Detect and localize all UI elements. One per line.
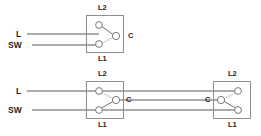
- top-section-group: [27, 16, 124, 53]
- label-bottom-right-l1: L1: [228, 121, 237, 129]
- blade-bottom-right-to-l2: [223, 93, 235, 99]
- blade-bottom-left-to-l1: [102, 101, 114, 108]
- terminal-bottom-left-l2: [96, 88, 103, 95]
- label-bottom-left-common: C: [126, 96, 131, 104]
- label-live-top: L: [16, 30, 21, 39]
- blade-top-to-l1: [102, 37, 114, 43]
- terminal-bottom-left-common: [112, 96, 119, 103]
- terminal-bottom-left-l1: [96, 107, 103, 114]
- label-live-bottom: L: [16, 87, 21, 96]
- label-top-switch-l2: L2: [98, 4, 107, 12]
- wiring-schematic-canvas: [0, 0, 261, 136]
- label-bottom-right-common: C: [205, 96, 210, 104]
- label-switched-live-bottom: SW: [8, 106, 22, 115]
- blade-top-to-l2: [102, 26, 114, 35]
- terminal-bottom-right-common: [217, 96, 224, 103]
- bottom-section-group: [27, 82, 251, 119]
- terminal-top-l1: [96, 41, 103, 48]
- blade-bottom-left-to-l2: [102, 93, 114, 99]
- label-switched-live-top: SW: [8, 41, 22, 50]
- label-top-switch-common: C: [128, 32, 133, 40]
- label-bottom-left-l2: L2: [98, 70, 107, 78]
- terminal-bottom-right-l2: [235, 88, 242, 95]
- label-top-switch-l1: L1: [98, 55, 107, 63]
- terminal-bottom-right-l1: [235, 107, 242, 114]
- wiring-diagram: L2 L1 C L SW L2 L1 C L2 L1 C L SW: [0, 0, 261, 136]
- blade-bottom-right-to-l1: [223, 101, 235, 108]
- terminal-top-l2: [96, 22, 103, 29]
- terminal-top-common: [112, 32, 119, 39]
- label-bottom-right-l2: L2: [228, 70, 237, 78]
- label-bottom-left-l1: L1: [98, 121, 107, 129]
